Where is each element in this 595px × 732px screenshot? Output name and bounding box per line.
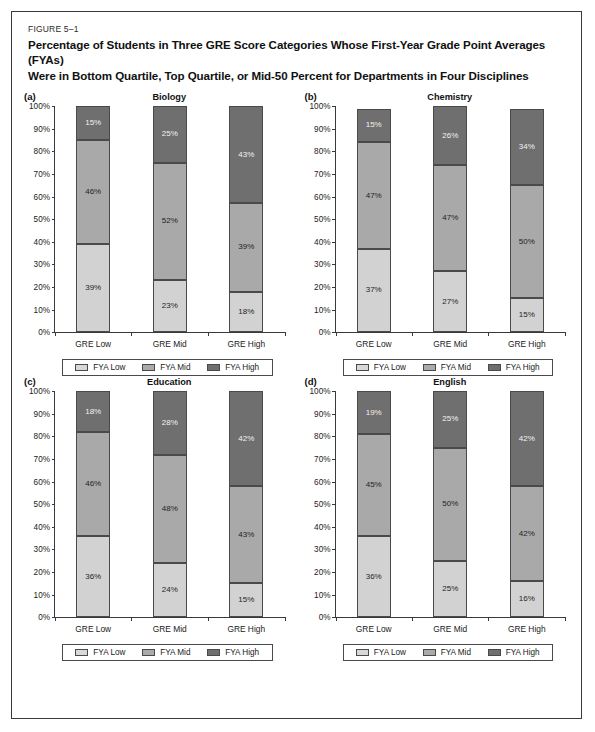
- x-axis-tick-label: GRE Mid: [433, 339, 467, 349]
- legend: FYA LowFYA MidFYA High: [62, 359, 273, 376]
- panel-title: Education: [22, 377, 291, 387]
- y-axis-tick-mark: [52, 482, 56, 483]
- y-axis-tick-mark: [52, 391, 56, 392]
- stacked-bar[interactable]: 23%52%25%: [153, 106, 187, 332]
- bar-segment-fya-mid[interactable]: 52%: [153, 163, 187, 281]
- legend-item[interactable]: FYA Mid: [423, 363, 471, 372]
- y-axis-tick-mark: [332, 197, 336, 198]
- bar-segment-fya-high[interactable]: 42%: [229, 391, 263, 486]
- legend-item[interactable]: FYA High: [207, 363, 259, 372]
- panel-title: Chemistry: [303, 92, 572, 102]
- bar-segment-fya-high[interactable]: 34%: [510, 109, 544, 186]
- bar-segment-value: 15%: [519, 311, 535, 319]
- y-axis-tick-mark: [332, 391, 336, 392]
- y-axis-tick-mark: [332, 572, 336, 573]
- bar-segment-value: 15%: [85, 119, 101, 127]
- bar-segment-fya-high[interactable]: 25%: [153, 106, 187, 163]
- bar-segment-fya-low[interactable]: 37%: [357, 249, 391, 333]
- bar-segment-fya-mid[interactable]: 39%: [229, 203, 263, 291]
- bar-segment-fya-low[interactable]: 15%: [229, 583, 263, 617]
- bar-segment-fya-mid[interactable]: 47%: [357, 142, 391, 248]
- y-axis-tick-mark: [52, 242, 56, 243]
- bar-segment-fya-high[interactable]: 43%: [229, 106, 263, 203]
- bar-segment-fya-mid[interactable]: 42%: [510, 486, 544, 581]
- stacked-bar[interactable]: 39%46%15%: [76, 106, 110, 332]
- bar-segment-fya-high[interactable]: 18%: [76, 391, 110, 432]
- legend-swatch-icon: [142, 364, 155, 371]
- stacked-bar[interactable]: 37%47%15%: [357, 106, 391, 332]
- bar-segment-fya-high[interactable]: 28%: [153, 391, 187, 454]
- bar-segment-fya-high[interactable]: 26%: [433, 106, 467, 165]
- bar-segment-fya-low[interactable]: 24%: [153, 563, 187, 617]
- stacked-bar[interactable]: 25%50%25%: [433, 391, 467, 617]
- bar-segment-fya-low[interactable]: 15%: [510, 298, 544, 332]
- legend-item[interactable]: FYA Low: [75, 363, 125, 372]
- bar-segment-fya-mid[interactable]: 48%: [153, 455, 187, 563]
- bar-segment-value: 45%: [366, 481, 382, 489]
- stacked-bar[interactable]: 15%50%34%: [510, 106, 544, 332]
- legend-item[interactable]: FYA High: [488, 648, 540, 657]
- figure-title: Percentage of Students in Three GRE Scor…: [28, 37, 565, 83]
- x-axis-tick-mark: [285, 332, 286, 336]
- panel-english: (d)English100%90%80%70%60%50%40%30%20%10…: [297, 376, 578, 661]
- bar-segment-fya-low[interactable]: 36%: [357, 536, 391, 617]
- stacked-bar[interactable]: 24%48%28%: [153, 391, 187, 617]
- bar-segment-fya-low[interactable]: 23%: [153, 280, 187, 332]
- x-axis-tick-mark: [336, 617, 337, 621]
- legend-item[interactable]: FYA Low: [356, 363, 406, 372]
- bar-segment-fya-low[interactable]: 36%: [76, 536, 110, 617]
- x-axis-tick-label: GRE High: [508, 339, 546, 349]
- legend-item[interactable]: FYA Mid: [423, 648, 471, 657]
- bar-segment-fya-mid[interactable]: 50%: [433, 448, 467, 561]
- bar-segment-fya-low[interactable]: 16%: [510, 581, 544, 617]
- figure-title-line2: Were in Bottom Quartile, Top Quartile, o…: [28, 68, 565, 83]
- y-axis-tick-mark: [332, 504, 336, 505]
- legend-item[interactable]: FYA Low: [75, 648, 125, 657]
- legend-item[interactable]: FYA Mid: [142, 648, 190, 657]
- bar-segment-fya-high[interactable]: 42%: [510, 391, 544, 486]
- y-axis-tick-mark: [332, 436, 336, 437]
- bar-segment-fya-high[interactable]: 25%: [433, 391, 467, 448]
- stacked-bar[interactable]: 36%45%19%: [357, 391, 391, 617]
- y-axis-tick-mark: [332, 264, 336, 265]
- bar-segment-fya-low[interactable]: 39%: [76, 244, 110, 332]
- x-axis-tick-mark: [208, 617, 209, 621]
- x-axis-tick-mark: [412, 332, 413, 336]
- legend-item[interactable]: FYA Low: [356, 648, 406, 657]
- bar-segment-value: 18%: [238, 308, 254, 316]
- bar-segment-fya-low[interactable]: 25%: [433, 561, 467, 618]
- legend-item[interactable]: FYA High: [207, 648, 259, 657]
- figure-title-line1: Percentage of Students in Three GRE Scor…: [28, 37, 565, 68]
- bar-segment-fya-high[interactable]: 19%: [357, 391, 391, 434]
- y-axis-tick-mark: [52, 310, 56, 311]
- bar-segment-value: 27%: [442, 298, 458, 306]
- x-axis-tick-mark: [131, 332, 132, 336]
- y-axis-tick-mark: [52, 459, 56, 460]
- y-axis-tick-mark: [52, 106, 56, 107]
- bar-segment-fya-mid[interactable]: 50%: [510, 185, 544, 298]
- stacked-bar[interactable]: 27%47%26%: [433, 106, 467, 332]
- bar-segment-value: 25%: [162, 130, 178, 138]
- bar-segment-value: 43%: [238, 531, 254, 539]
- stacked-bar[interactable]: 36%46%18%: [76, 391, 110, 617]
- legend-swatch-icon: [207, 649, 220, 656]
- legend-item[interactable]: FYA Mid: [142, 363, 190, 372]
- bar-segment-fya-mid[interactable]: 46%: [76, 140, 110, 244]
- bar-segment-fya-mid[interactable]: 47%: [433, 165, 467, 271]
- bar-segment-fya-high[interactable]: 15%: [76, 106, 110, 140]
- plot-area: 100%90%80%70%60%50%40%30%20%10%0%36%45%1…: [335, 391, 566, 618]
- y-axis-tick-mark: [332, 595, 336, 596]
- bar-segment-fya-mid[interactable]: 45%: [357, 434, 391, 536]
- bar-segment-fya-low[interactable]: 27%: [433, 271, 467, 332]
- stacked-bar[interactable]: 18%39%43%: [229, 106, 263, 332]
- bar-segment-fya-mid[interactable]: 43%: [229, 486, 263, 583]
- legend-item[interactable]: FYA High: [488, 363, 540, 372]
- y-axis-tick-mark: [332, 414, 336, 415]
- stacked-bar[interactable]: 16%42%42%: [510, 391, 544, 617]
- stacked-bar[interactable]: 15%43%42%: [229, 391, 263, 617]
- bar-segment-fya-mid[interactable]: 46%: [76, 432, 110, 536]
- bar-segment-fya-low[interactable]: 18%: [229, 292, 263, 333]
- bar-segment-fya-high[interactable]: 15%: [357, 109, 391, 143]
- legend-swatch-icon: [75, 364, 88, 371]
- legend-label: FYA High: [506, 363, 540, 372]
